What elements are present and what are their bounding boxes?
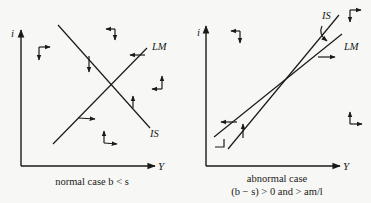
- is-lm-diagram: i Y LM IS: [0, 0, 371, 203]
- quadrant-arrow-north: [106, 29, 115, 40]
- quadrant-arrow-north-west: [231, 31, 240, 43]
- is-label: IS: [149, 128, 159, 139]
- lm-label: LM: [343, 41, 360, 52]
- curve-adjustment-arrows: [78, 55, 145, 119]
- quadrant-corner-mark: [215, 139, 224, 147]
- right-caption-line1: abnormal case: [247, 173, 308, 184]
- y-axis-label: i: [197, 26, 200, 38]
- curve-adjustment-arrows: [221, 26, 335, 138]
- is-curve: [58, 25, 150, 128]
- quadrant-arrow-east: [152, 76, 162, 89]
- lm-label: LM: [151, 41, 168, 52]
- x-axis-label: Y: [158, 160, 166, 172]
- quadrant-arrow-east: [350, 112, 362, 124]
- is-label: IS: [321, 10, 331, 21]
- left-panel-normal-case: i Y LM IS: [11, 25, 168, 187]
- quadrant-arrow-south: [104, 131, 117, 144]
- right-caption-line2: (b − s) > 0 and > am/l: [231, 186, 323, 198]
- quadrant-arrow-north-east: [350, 10, 361, 22]
- right-panel-abnormal-case: i Y IS LM abnormal cas: [197, 10, 362, 198]
- left-caption: normal case b < s: [55, 176, 129, 187]
- x-axis-label: Y: [343, 160, 351, 172]
- quadrant-arrow-west: [39, 47, 50, 60]
- y-axis-label: i: [11, 27, 14, 39]
